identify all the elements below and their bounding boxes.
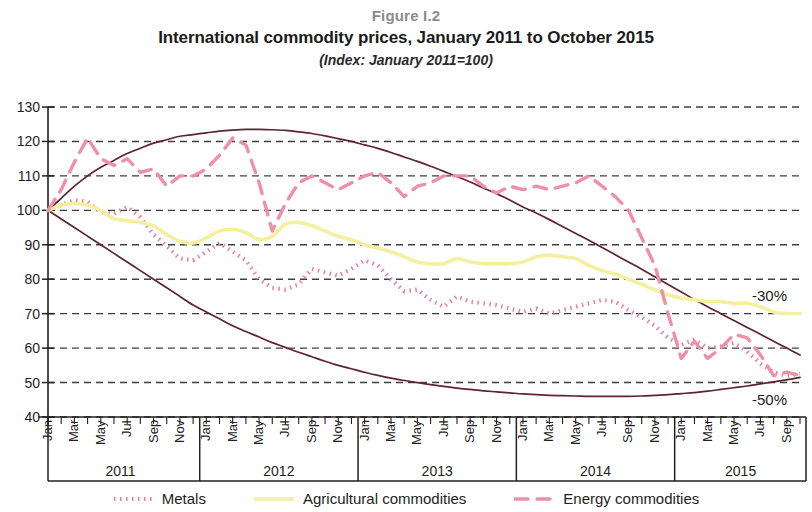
legend-label-agricultural: Agricultural commodities (303, 491, 466, 507)
x-axis-month-label: Mar (226, 420, 239, 464)
x-axis-year-label: 2014 (580, 462, 611, 480)
y-axis-tick-label: 50 (0, 376, 40, 390)
x-axis-month-labels: JanMarMayJulSepNovJanMarMayJulSepNovJanM… (0, 420, 812, 468)
x-axis-month-label: Sep (147, 420, 160, 464)
plot-area (0, 92, 812, 432)
legend-swatch-agricultural (254, 493, 294, 505)
x-axis-month-label: Jul (595, 420, 608, 464)
x-axis-month-label: Jan (516, 420, 529, 464)
y-axis-tick-label: 80 (0, 272, 40, 286)
x-axis-month-label: Nov (648, 420, 661, 464)
y-axis-tick-label: 100 (0, 203, 40, 217)
series-line-metals (48, 200, 800, 376)
x-axis-month-label: May (727, 420, 740, 464)
x-axis-month-label: Jan (358, 420, 371, 464)
x-axis-month-label: Sep (621, 420, 634, 464)
x-axis-month-label: Sep (305, 420, 318, 464)
x-axis-month-label: Jul (120, 420, 133, 464)
x-axis-month-label: Mar (542, 420, 555, 464)
x-axis-month-label: Sep (463, 420, 476, 464)
percent-change-annotation: -30% (752, 288, 787, 304)
x-axis-month-label: May (569, 420, 582, 464)
x-axis-month-label: Mar (384, 420, 397, 464)
figure-subtitle: (Index: January 2011=100) (0, 50, 812, 70)
chart-legend: MetalsAgricultural commoditiesEnergy com… (0, 486, 812, 512)
x-axis-month-label: Jul (278, 420, 291, 464)
title-block: Figure I.2 International commodity price… (0, 6, 812, 70)
x-axis-year-label: 2012 (263, 462, 294, 480)
y-axis-tick-label: 110 (0, 169, 40, 183)
legend-swatch-energy (514, 493, 554, 505)
legend-label-metals: Metals (162, 491, 206, 507)
legend-item-energy[interactable]: Energy commodities (514, 491, 699, 507)
x-axis-month-label: May (252, 420, 265, 464)
x-axis-month-label: Jan (674, 420, 687, 464)
x-axis-month-label: May (410, 420, 423, 464)
figure-container: Figure I.2 International commodity price… (0, 0, 812, 512)
legend-swatch-metals (113, 493, 153, 505)
y-axis-labels: 130120110100908070605040 (0, 92, 46, 432)
figure-number: Figure I.2 (0, 6, 812, 26)
x-axis-month-label: Sep (780, 420, 793, 464)
chart-svg (0, 92, 812, 432)
y-axis-tick-label: 90 (0, 238, 40, 252)
x-axis-month-label: Jul (753, 420, 766, 464)
x-axis-month-label: Nov (173, 420, 186, 464)
y-axis-tick-label: 130 (0, 100, 40, 114)
y-axis-tick-label: 120 (0, 134, 40, 148)
x-axis-month-label: Nov (331, 420, 344, 464)
percent-change-annotation: -50% (752, 392, 787, 408)
x-axis-month-label: Mar (701, 420, 714, 464)
legend-item-metals[interactable]: Metals (113, 491, 206, 507)
figure-title: International commodity prices, January … (0, 26, 812, 50)
y-axis-tick-label: 60 (0, 341, 40, 355)
series-line-energy (48, 138, 800, 376)
legend-item-agricultural[interactable]: Agricultural commodities (254, 491, 466, 507)
x-axis-month-label: Jan (41, 420, 54, 464)
envelope-upper-line (48, 129, 800, 355)
x-axis-year-labels: 20112012201320142015 (0, 462, 812, 484)
x-axis-month-label: Jul (437, 420, 450, 464)
x-axis-month-label: May (94, 420, 107, 464)
x-axis-year-label: 2015 (725, 462, 756, 480)
x-axis-year-label: 2013 (422, 462, 453, 480)
x-axis-month-label: Jan (199, 420, 212, 464)
x-axis-year-label: 2011 (105, 462, 135, 480)
x-axis-month-label: Nov (490, 420, 503, 464)
y-axis-tick-label: 70 (0, 307, 40, 321)
legend-label-energy: Energy commodities (563, 491, 699, 507)
x-axis-month-label: Mar (67, 420, 80, 464)
